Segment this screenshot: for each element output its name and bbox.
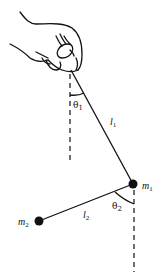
m2-label: m2	[18, 216, 29, 229]
angle-arc-theta2	[115, 192, 134, 204]
double-pendulum-diagram: θ1 l1 θ2 l2 m1 m2	[0, 0, 167, 279]
theta2-label: θ2	[112, 201, 122, 213]
theta1-label: θ1	[73, 100, 83, 112]
rod-l1	[71, 70, 133, 184]
m1-label: m1	[142, 180, 153, 193]
mass-m2	[35, 217, 44, 226]
l1-label: l1	[110, 116, 117, 129]
hand-icon	[10, 12, 82, 72]
l2-label: l2	[83, 209, 90, 222]
mass-m1	[129, 180, 138, 189]
angle-arc-theta1	[70, 93, 84, 95]
